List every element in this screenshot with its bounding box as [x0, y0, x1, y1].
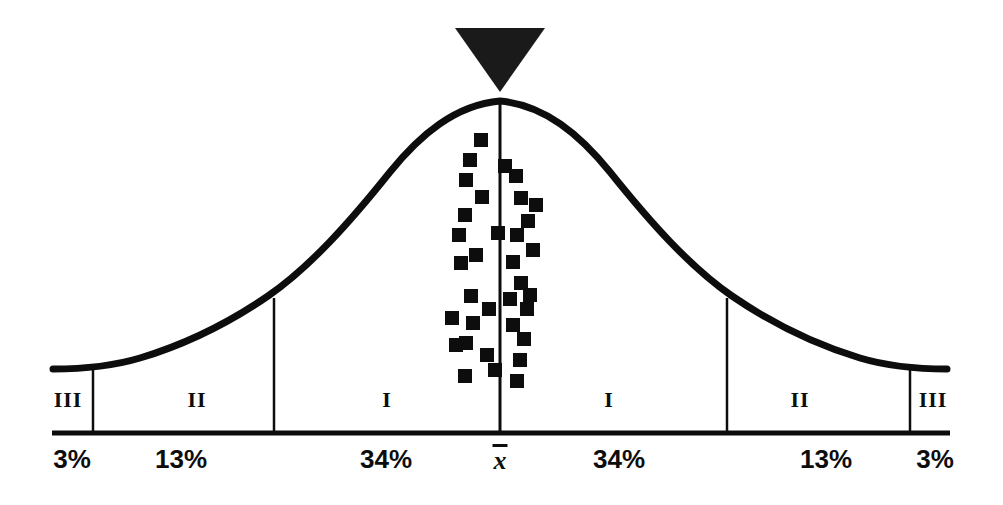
score-marker-square [480, 348, 494, 362]
score-marker-square [521, 214, 535, 228]
score-marker-square [491, 226, 505, 240]
normal-curve-figure: III II I I II III 3% 13% 34% 34% 13% 3% … [0, 0, 1003, 505]
score-marker-square [452, 228, 466, 242]
score-marker-square [517, 332, 531, 346]
score-marker-square [506, 318, 520, 332]
score-marker-square [510, 374, 524, 388]
band-label-left-1: I [382, 389, 392, 411]
score-marker-square [475, 190, 489, 204]
score-marker-group [445, 133, 543, 388]
score-marker-square [488, 363, 502, 377]
score-marker-square [482, 302, 496, 316]
score-marker-square [503, 292, 517, 306]
score-marker-square [463, 153, 477, 167]
score-marker-square [458, 369, 472, 383]
band-label-right-2: II [790, 389, 809, 411]
score-marker-square [474, 133, 488, 147]
score-marker-square [466, 316, 480, 330]
score-marker-square [506, 255, 520, 269]
score-marker-square [526, 243, 540, 257]
percent-label-right-3: 3% [916, 446, 954, 472]
score-marker-square [459, 173, 473, 187]
triangle-down-icon [455, 28, 545, 92]
normal-curve-graphic [0, 0, 1003, 505]
score-marker-square [514, 276, 528, 290]
percent-label-right-1: 34% [593, 446, 645, 472]
score-marker-square [514, 191, 528, 205]
percent-label-left-2: 13% [155, 446, 207, 472]
score-marker-square [513, 353, 527, 367]
xbar-glyph: x [493, 448, 508, 474]
score-marker-square [498, 159, 512, 173]
score-marker-square [523, 288, 537, 302]
mean-xbar-label: x [493, 444, 508, 474]
band-label-right-3: III [919, 389, 948, 411]
score-marker-square [469, 248, 483, 262]
score-marker-square [449, 338, 463, 352]
score-marker-square [520, 302, 534, 316]
score-marker-square [458, 208, 472, 222]
band-label-right-1: I [604, 389, 614, 411]
score-marker-square [454, 256, 468, 270]
score-marker-square [445, 311, 459, 325]
percent-label-left-1: 34% [360, 446, 412, 472]
percent-label-left-3: 3% [53, 446, 91, 472]
score-marker-square [464, 289, 478, 303]
score-marker-square [529, 198, 543, 212]
band-label-left-3: III [54, 389, 83, 411]
percent-label-right-2: 13% [800, 446, 852, 472]
band-label-left-2: II [187, 389, 206, 411]
score-marker-square [510, 228, 524, 242]
